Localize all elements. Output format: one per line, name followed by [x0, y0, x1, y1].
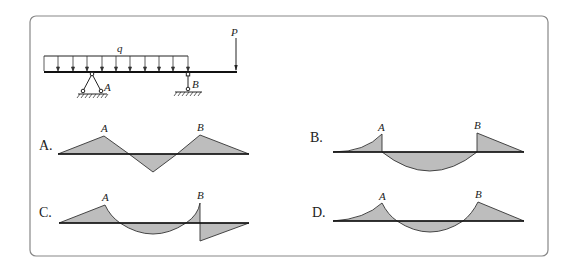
option-a-diagram[interactable]: A. A B: [39, 121, 249, 172]
option-d-letter: D.: [312, 205, 326, 220]
option-c-label-b: B: [197, 189, 204, 201]
force-arrow-icon: [234, 65, 237, 71]
distributed-load-arrows: [44, 56, 190, 71]
option-b-label-b: B: [474, 119, 481, 131]
option-d-label-a: A: [378, 190, 386, 202]
support-b-label: B: [192, 78, 199, 90]
option-a-letter: A.: [39, 138, 53, 153]
option-c-diagram[interactable]: C. A B: [39, 189, 249, 241]
option-d-diagram[interactable]: D. A B: [312, 188, 524, 232]
option-b-label-a: A: [377, 121, 385, 133]
option-a-label-b: B: [197, 121, 204, 133]
load-label-q: q: [117, 42, 123, 54]
option-b-letter: B.: [310, 130, 323, 145]
option-c-label-a: A: [101, 191, 109, 203]
option-a-label-a: A: [100, 122, 108, 134]
option-c-letter: C.: [39, 205, 52, 220]
beam-diagram: q P A: [44, 26, 238, 98]
support-a-label: A: [103, 81, 111, 93]
problem-figure: q P A: [0, 0, 579, 272]
option-b-diagram[interactable]: B. A B: [310, 119, 524, 171]
force-label-p: P: [230, 26, 238, 38]
option-d-label-b: B: [475, 188, 482, 200]
